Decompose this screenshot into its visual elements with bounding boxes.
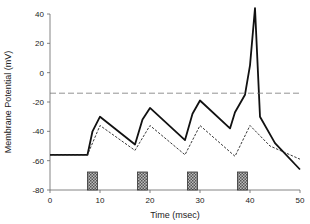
stimulus-bar <box>88 172 98 190</box>
y-tick-label: -40 <box>32 127 44 136</box>
stimulus-bar <box>238 172 248 190</box>
axes: 40200-20-40-60-8001020304050 <box>32 10 305 205</box>
x-tick-label: 30 <box>196 196 205 205</box>
stimulus-bar <box>188 172 198 190</box>
x-tick-label: 50 <box>296 196 305 205</box>
x-axis-label: Time (msec) <box>150 210 200 220</box>
x-tick-label: 10 <box>96 196 105 205</box>
y-tick-label: 20 <box>35 39 44 48</box>
y-tick-label: 40 <box>35 10 44 19</box>
x-tick-label: 20 <box>146 196 155 205</box>
series-line <box>50 8 300 169</box>
data-lines <box>50 8 300 169</box>
y-tick-label: 0 <box>40 69 45 78</box>
x-tick-label: 0 <box>48 196 53 205</box>
y-axis-label: Membrane Potential (mV) <box>3 51 13 154</box>
stimulus-bar <box>138 172 148 190</box>
y-tick-label: -80 <box>32 186 44 195</box>
y-tick-label: -60 <box>32 157 44 166</box>
x-tick-label: 40 <box>246 196 255 205</box>
membrane-potential-chart: 40200-20-40-60-8001020304050 Time (msec)… <box>0 0 310 224</box>
stimulus-bars <box>88 172 248 190</box>
y-tick-label: -20 <box>32 98 44 107</box>
